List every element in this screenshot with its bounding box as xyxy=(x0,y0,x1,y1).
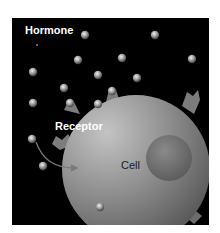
diagram-canvas xyxy=(12,18,209,225)
bound-hormone xyxy=(66,99,74,107)
hormone-molecule xyxy=(151,31,159,39)
hormone-molecule xyxy=(74,56,82,64)
cell-label: Cell xyxy=(121,159,140,171)
hormone-molecule xyxy=(28,135,36,143)
cell-nucleus xyxy=(146,135,192,181)
hormone-molecule xyxy=(118,54,126,62)
bound-hormone xyxy=(108,87,116,95)
receptor-label: Receptor xyxy=(55,120,103,132)
bound-hormone xyxy=(96,203,104,211)
receptor-right xyxy=(182,90,200,114)
hormone-receptor-diagram: Hormone Receptor Cell xyxy=(12,18,209,225)
hormone-molecule xyxy=(133,74,141,82)
hormone-dot xyxy=(36,44,38,46)
hormone-molecule xyxy=(29,99,37,107)
hormone-molecule xyxy=(81,31,89,39)
hormone-molecule xyxy=(94,71,102,79)
hormone-molecule xyxy=(60,84,68,92)
hormone-label: Hormone xyxy=(25,24,73,36)
hormone-molecule xyxy=(39,162,47,170)
hormone-molecule xyxy=(94,100,102,108)
hormone-molecule xyxy=(188,55,196,63)
hormone-molecule xyxy=(29,68,37,76)
